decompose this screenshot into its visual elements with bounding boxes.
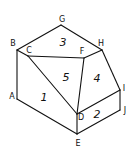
vertex-label-c: C [26, 46, 32, 55]
vertex-label-a: A [9, 92, 15, 101]
vertex-label-e: E [75, 139, 80, 148]
edge-hi [102, 50, 120, 90]
vertex-label-g: G [59, 15, 65, 24]
edge-cd [28, 56, 77, 114]
face-label-4: 4 [94, 72, 101, 85]
face-label-5: 5 [63, 71, 70, 84]
edge-fd [77, 58, 84, 114]
edge-fh [84, 50, 102, 58]
vertex-label-b: B [10, 39, 16, 48]
edge-bg [17, 25, 61, 50]
face-label-3: 3 [60, 36, 67, 49]
face-labels-group: 12345 [41, 36, 101, 121]
vertex-label-d: D [78, 113, 84, 122]
vertex-label-f: F [80, 47, 85, 56]
edge-cf [28, 56, 84, 58]
isometric-solid-diagram: ABCDEFGHIJ 12345 [0, 0, 137, 153]
vertex-label-i: I [123, 84, 125, 93]
vertex-label-h: H [98, 39, 104, 48]
face-label-1: 1 [41, 91, 48, 104]
edge-ae [17, 99, 77, 134]
face-label-2: 2 [94, 108, 101, 121]
vertex-label-j: J [123, 106, 126, 115]
